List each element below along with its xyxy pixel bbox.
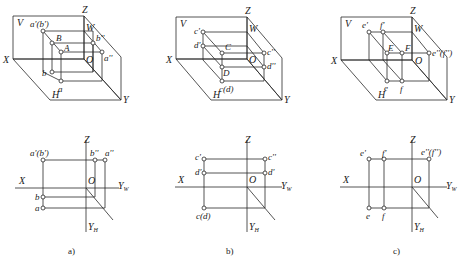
axis-label-x: X xyxy=(165,54,173,65)
axis-label-o-text: O xyxy=(415,55,422,66)
projection-line xyxy=(369,32,387,53)
axis-label-x-text: X xyxy=(18,175,26,186)
point-label-text: e''(f'') xyxy=(421,147,441,157)
axis-label-x: X xyxy=(177,174,185,185)
axis-label-y-w-subscript: W xyxy=(452,186,458,192)
point-label: f xyxy=(400,84,404,94)
projection-line xyxy=(369,60,387,81)
axis-label-x-text: X xyxy=(342,174,350,185)
axis-label-z-text: Z xyxy=(84,134,90,145)
point-label-text: E xyxy=(387,43,394,53)
axis-label-o: O xyxy=(249,174,256,185)
point-marker xyxy=(367,206,371,210)
point-label-text: a'(b') xyxy=(30,19,49,29)
point-label-text: a'' xyxy=(105,148,114,158)
point-label: d' xyxy=(195,167,203,177)
point-label: d' xyxy=(268,167,276,177)
point-label: C xyxy=(225,42,232,52)
point-label: b xyxy=(35,192,40,202)
point-label-text: d' xyxy=(195,167,203,177)
point-label: a'' xyxy=(105,148,114,158)
axis-label-v: V xyxy=(17,17,25,28)
point-marker xyxy=(262,51,266,55)
axis-label-y-w-subscript: W xyxy=(124,186,130,192)
axis-label-z: Z xyxy=(84,134,90,145)
point-marker xyxy=(400,79,404,83)
axis-label-z-text: Z xyxy=(410,5,416,16)
point-marker xyxy=(202,157,206,161)
axis-label-y-w-subscript: W xyxy=(287,186,293,192)
point-label: e xyxy=(384,83,388,93)
point-label: a'' xyxy=(104,53,113,63)
panel-a-orthographic-view: ZXOYWYHa'(b')b''a''ba xyxy=(15,134,130,233)
axis-label-x: X xyxy=(18,175,26,186)
axis-label-x: X xyxy=(2,54,10,65)
axis-label-v: V xyxy=(180,18,188,29)
point-marker xyxy=(201,30,205,34)
axis-label-o: O xyxy=(88,175,95,186)
point-label-text: C xyxy=(225,42,232,52)
axis-label-w: W xyxy=(249,23,259,34)
point-marker xyxy=(50,70,54,74)
axis-label-y-h-subscript: H xyxy=(93,227,99,233)
axis-label-v-text: V xyxy=(180,18,188,29)
point-label-text: A xyxy=(63,43,70,53)
axis-label-o-text: O xyxy=(249,174,256,185)
point-label: F xyxy=(404,43,411,53)
point-marker xyxy=(91,41,95,45)
point-marker xyxy=(367,157,371,161)
point-label-text: c(d) xyxy=(196,211,211,221)
point-label: e' xyxy=(360,148,367,158)
projection-line xyxy=(412,32,429,53)
point-label-text: c'' xyxy=(268,152,277,162)
three-view-projection-figure: ZVWXOHYa'(b')BAb''a''ba ZXOYWYHa'(b')b''… xyxy=(0,0,465,268)
axis-label-y-text: Y xyxy=(284,94,291,105)
axis-label-z: Z xyxy=(245,5,251,16)
point-marker xyxy=(263,171,267,175)
panel-c-pictorial-view: ZVWXOHYe'f'EFe''(f'')ef xyxy=(330,5,456,105)
point-label-text: B xyxy=(56,33,62,43)
axis-label-z-text: Z xyxy=(245,134,251,145)
axis-label-o: O xyxy=(415,55,422,66)
axis-label-o-text: O xyxy=(88,175,95,186)
axis-label-o: O xyxy=(249,54,256,65)
axis-label-x: X xyxy=(330,55,338,66)
point-label: c(d) xyxy=(196,211,211,221)
point-label: b'' xyxy=(90,148,99,158)
axis-label-v: V xyxy=(345,18,353,29)
point-marker xyxy=(50,41,54,45)
axis-label-z-text: Z xyxy=(410,134,416,145)
point-marker xyxy=(41,158,45,162)
point-label-text: c(d) xyxy=(219,84,234,94)
point-label: a xyxy=(58,84,63,94)
panel-c: ZVWXOHYe'f'EFe''(f'')ef ZXOYWYHe'f'e''(f… xyxy=(330,5,458,256)
point-marker xyxy=(381,30,385,34)
point-label: a'(b') xyxy=(30,148,49,158)
point-label-text: c' xyxy=(194,26,201,36)
axis-label-o: O xyxy=(86,54,93,65)
axis-label-v-text: V xyxy=(345,18,353,29)
point-label-text: f' xyxy=(382,148,388,158)
axis-label-y-h: YH xyxy=(88,221,99,233)
projection-line xyxy=(203,46,222,67)
point-label-text: a'(b') xyxy=(30,148,49,158)
point-label-text: a xyxy=(35,203,40,213)
axis-label-o-text: O xyxy=(249,54,256,65)
axis-label-y-h: YH xyxy=(414,221,425,233)
axis-label-o: O xyxy=(414,174,421,185)
projection-line xyxy=(247,32,264,53)
plane-h-outline xyxy=(13,59,121,100)
miter-45-line xyxy=(86,188,113,220)
point-label: e' xyxy=(362,20,369,30)
point-label-text: e''(f'') xyxy=(432,48,452,58)
point-label: d' xyxy=(194,40,202,50)
point-label: b'' xyxy=(96,33,105,43)
axis-label-v-text: V xyxy=(17,17,25,28)
axis-label-x: X xyxy=(342,174,350,185)
point-marker xyxy=(41,29,45,33)
panel-a: ZVWXOHYa'(b')BAb''a''ba ZXOYWYHa'(b')b''… xyxy=(2,4,130,256)
axis-label-y-w: YW xyxy=(281,180,293,192)
panel-b-caption: b) xyxy=(226,246,234,256)
miter-45-line xyxy=(412,187,438,218)
panel-b-orthographic-view: ZXOYWYHc'd'c''d'c(d) xyxy=(175,134,293,233)
